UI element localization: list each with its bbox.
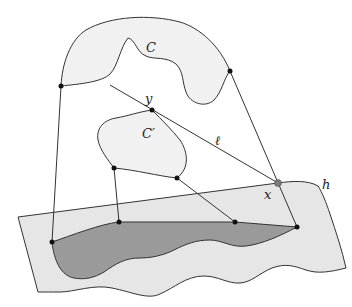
point-c-left: [59, 84, 64, 89]
point-shadow-right: [295, 225, 300, 230]
label-ell: ℓ: [215, 133, 221, 148]
label-c-prime: C′: [142, 126, 155, 141]
point-shadow-mid2: [233, 220, 238, 225]
point-shadow-mid1: [117, 220, 122, 225]
diagram-svg: C C′ y ℓ x h: [0, 0, 352, 307]
label-y: y: [144, 91, 153, 106]
label-x: x: [264, 187, 272, 202]
point-x: [275, 180, 282, 187]
label-h: h: [322, 177, 330, 192]
region-c-prime: [98, 110, 187, 178]
point-c-right: [228, 69, 233, 74]
diagram-canvas: C C′ y ℓ x h: [0, 0, 352, 307]
point-cp-left: [112, 166, 117, 171]
point-cp-right: [175, 176, 180, 181]
point-y: [150, 108, 155, 113]
point-shadow-left: [50, 240, 55, 245]
label-c: C: [146, 40, 156, 55]
